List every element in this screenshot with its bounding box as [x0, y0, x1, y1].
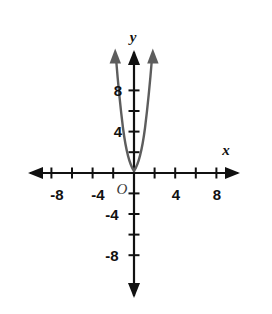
y-axis-top-arrowhead	[128, 50, 140, 65]
graph-canvas: y x O -8 -4 4 8 8 4 -4 -8	[0, 0, 272, 314]
origin-label: O	[117, 181, 128, 197]
parabola-right-arm-arrowhead	[147, 49, 158, 64]
x-tick-label-pos4: 4	[172, 186, 181, 203]
x-tick-label-neg4: -4	[91, 186, 105, 203]
y-axis-label: y	[128, 29, 137, 45]
x-tick-label-pos8: 8	[213, 186, 221, 203]
x-tick-label-neg8: -8	[50, 186, 63, 203]
parabola-left-arm-arrowhead	[110, 49, 121, 64]
x-axis-label: x	[221, 142, 230, 158]
y-tick-label-pos8: 8	[114, 82, 122, 99]
y-tick-label-pos4: 4	[114, 123, 123, 140]
y-axis-bottom-arrowhead	[128, 283, 140, 298]
x-axis-right-arrowhead	[225, 167, 240, 179]
y-tick-label-neg4: -4	[105, 206, 119, 223]
coordinate-plane-figure: y x O -8 -4 4 8 8 4 -4 -8	[0, 0, 272, 314]
x-axis-left-arrowhead	[28, 167, 43, 179]
y-tick-label-neg8: -8	[105, 247, 118, 264]
